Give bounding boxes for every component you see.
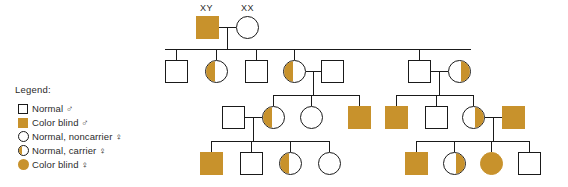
square-filled-icon xyxy=(14,118,32,128)
sibship-bar-III-left xyxy=(273,95,360,96)
sib-drop-II-1 xyxy=(176,49,177,60)
legend-item-label: Normal ♂ xyxy=(32,103,73,114)
sib-drop-III-2 xyxy=(273,95,274,106)
sib-drop-IV-8 xyxy=(529,141,530,152)
individual-II-6-square-open[interactable] xyxy=(408,60,431,83)
legend-item-label: Normal, carrier ♀ xyxy=(32,145,106,156)
legend-item-label: Color blind ♀ xyxy=(32,159,88,170)
individual-IV-7-circle-filled[interactable] xyxy=(480,152,503,175)
individual-II-1-square-open[interactable] xyxy=(165,60,188,83)
sib-drop-II-3 xyxy=(256,49,257,60)
descent-line-III-1-2 xyxy=(253,117,254,141)
individual-I-2-circle-open[interactable] xyxy=(236,16,259,39)
individual-III-7-circle-half[interactable] xyxy=(462,106,485,129)
genotype-label-founder-female: XX xyxy=(241,3,254,13)
individual-II-3-square-open[interactable] xyxy=(245,60,268,83)
individual-IV-5-square-filled[interactable] xyxy=(405,152,428,175)
sibship-bar-IV-right xyxy=(416,141,529,142)
descent-line-III-7-8 xyxy=(493,117,494,141)
sib-drop-II-4 xyxy=(294,49,295,60)
sibship-bar-III-right xyxy=(396,95,473,96)
sib-drop-III-7 xyxy=(473,95,474,106)
sib-drop-IV-2 xyxy=(251,141,252,152)
sib-drop-II-2 xyxy=(216,49,217,60)
individual-III-4-square-filled[interactable] xyxy=(348,106,371,129)
legend-item-colorblind-female: Color blind ♀ xyxy=(14,158,154,171)
descent-line-II-6-7 xyxy=(439,71,440,95)
sib-drop-IV-3 xyxy=(290,141,291,152)
legend-item-label: Color blind ♂ xyxy=(32,117,88,128)
sib-drop-III-6 xyxy=(436,95,437,106)
individual-II-7-circle-half[interactable] xyxy=(448,60,471,83)
individual-III-2-circle-half[interactable] xyxy=(262,106,285,129)
individual-II-5-square-open[interactable] xyxy=(321,60,344,83)
sib-drop-IV-5 xyxy=(416,141,417,152)
individual-IV-6-circle-half[interactable] xyxy=(443,152,466,175)
individual-IV-8-square-open[interactable] xyxy=(518,152,541,175)
circle-filled-icon xyxy=(14,159,32,170)
sibship-bar-II xyxy=(165,49,471,50)
descent-line-I xyxy=(227,27,228,49)
legend-item-normal-carrier-female: Normal, carrier ♀ xyxy=(14,144,154,157)
individual-III-8-square-filled[interactable] xyxy=(502,106,525,129)
individual-IV-3-circle-half[interactable] xyxy=(279,152,302,175)
circle-half-icon xyxy=(14,145,32,156)
sib-drop-II-6 xyxy=(419,49,420,60)
sib-drop-III-5 xyxy=(396,95,397,106)
square-open-icon xyxy=(14,104,32,114)
individual-II-2-circle-half[interactable] xyxy=(205,60,228,83)
individual-III-1-square-open[interactable] xyxy=(222,106,245,129)
legend-item-label: Normal, noncarrier ♀ xyxy=(32,131,122,142)
sibship-bar-IV-left xyxy=(211,141,329,142)
descent-line-II-4-5 xyxy=(313,71,314,95)
individual-I-1-square-filled[interactable] xyxy=(196,16,219,39)
pedigree-diagram: Legend: Normal ♂ Color blind ♂ Normal, n… xyxy=(0,0,568,187)
legend-item-colorblind-male: Color blind ♂ xyxy=(14,116,154,129)
legend: Legend: Normal ♂ Color blind ♂ Normal, n… xyxy=(14,84,154,172)
sib-drop-III-4 xyxy=(359,95,360,106)
individual-III-6-square-open[interactable] xyxy=(425,106,448,129)
individual-IV-1-square-filled[interactable] xyxy=(200,152,223,175)
individual-IV-2-square-open[interactable] xyxy=(240,152,263,175)
sib-drop-IV-1 xyxy=(211,141,212,152)
genotype-label-founder-male: XY xyxy=(200,3,213,13)
sib-drop-IV-4 xyxy=(329,141,330,152)
legend-title: Legend: xyxy=(15,84,154,95)
circle-open-icon xyxy=(14,131,32,142)
sib-drop-IV-6 xyxy=(454,141,455,152)
individual-III-5-square-filled[interactable] xyxy=(385,106,408,129)
individual-II-4-circle-half[interactable] xyxy=(283,60,306,83)
legend-item-normal-noncarrier-female: Normal, noncarrier ♀ xyxy=(14,130,154,143)
sib-drop-IV-7 xyxy=(491,141,492,152)
legend-item-normal-male: Normal ♂ xyxy=(14,102,154,115)
individual-III-3-circle-open[interactable] xyxy=(300,106,323,129)
individual-IV-4-circle-open[interactable] xyxy=(318,152,341,175)
sib-drop-III-3 xyxy=(311,95,312,106)
